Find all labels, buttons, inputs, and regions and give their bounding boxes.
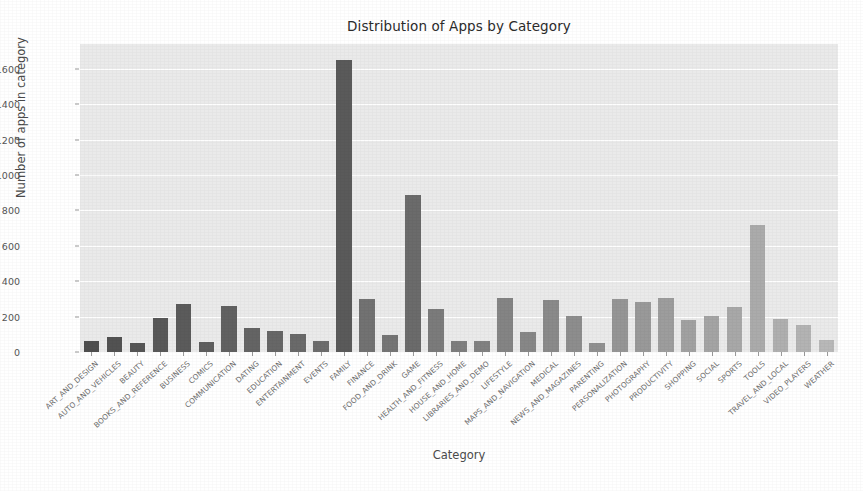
bar[interactable] (773, 319, 789, 352)
bar[interactable] (130, 343, 146, 352)
y-tick-label: 600 (0, 240, 20, 251)
y-tick-mark (75, 174, 79, 175)
bar[interactable] (84, 341, 100, 352)
x-tick-mark (344, 352, 345, 356)
y-tick-mark (75, 139, 79, 140)
x-tick-mark (827, 352, 828, 356)
x-tick-mark (574, 352, 575, 356)
bar[interactable] (359, 299, 375, 352)
y-tick-mark (75, 210, 79, 211)
x-tick-mark (183, 352, 184, 356)
y-tick-label: 1400 (0, 99, 20, 110)
x-tick-mark (781, 352, 782, 356)
x-tick-mark (758, 352, 759, 356)
x-tick-mark (367, 352, 368, 356)
x-tick-mark (413, 352, 414, 356)
bar[interactable] (704, 316, 720, 352)
bar[interactable] (428, 309, 444, 352)
x-tick-mark (160, 352, 161, 356)
x-tick-mark (298, 352, 299, 356)
x-tick-mark (666, 352, 667, 356)
y-tick-mark (75, 245, 79, 246)
x-tick-label: EVENTS (302, 359, 330, 386)
bar[interactable] (681, 320, 697, 352)
bar[interactable] (589, 343, 605, 352)
x-tick-mark (252, 352, 253, 356)
bar[interactable] (497, 298, 513, 352)
y-tick-label: 400 (0, 276, 20, 287)
y-tick-label: 1200 (0, 134, 20, 145)
bar[interactable] (543, 300, 559, 352)
bar[interactable] (199, 342, 215, 352)
bar[interactable] (750, 225, 766, 352)
x-tick-mark (689, 352, 690, 356)
x-tick-mark (206, 352, 207, 356)
x-tick-mark (528, 352, 529, 356)
x-tick-mark (505, 352, 506, 356)
x-tick-mark (91, 352, 92, 356)
x-tick-mark (114, 352, 115, 356)
y-tick-mark (75, 352, 79, 353)
y-tick-label: 0 (0, 347, 20, 358)
x-tick-mark (436, 352, 437, 356)
bar[interactable] (290, 334, 306, 352)
bar[interactable] (107, 337, 123, 352)
bar[interactable] (221, 306, 237, 352)
x-axis-label: Category (80, 448, 838, 462)
bar[interactable] (267, 331, 283, 352)
y-tick-label: 1000 (0, 169, 20, 180)
bar[interactable] (658, 298, 674, 352)
bar[interactable] (153, 318, 169, 352)
bar[interactable] (566, 316, 582, 352)
x-tick-mark (551, 352, 552, 356)
bar[interactable] (474, 341, 490, 352)
bar[interactable] (727, 307, 743, 352)
bar[interactable] (612, 299, 628, 352)
y-tick-mark (75, 104, 79, 105)
plot-area (80, 44, 838, 352)
y-tick-label: 200 (0, 311, 20, 322)
x-tick-mark (620, 352, 621, 356)
x-tick-mark (597, 352, 598, 356)
y-tick-label: 1600 (0, 63, 20, 74)
bar[interactable] (635, 302, 651, 352)
x-tick-mark (735, 352, 736, 356)
bar[interactable] (336, 60, 352, 352)
x-tick-mark (459, 352, 460, 356)
x-tick-mark (390, 352, 391, 356)
x-tick-mark (804, 352, 805, 356)
y-tick-mark (75, 68, 79, 69)
y-tick-mark (75, 281, 79, 282)
bar[interactable] (520, 332, 536, 352)
bar[interactable] (313, 341, 329, 352)
x-tick-mark (321, 352, 322, 356)
bar[interactable] (796, 325, 812, 352)
bar[interactable] (244, 328, 260, 352)
x-tick-mark (482, 352, 483, 356)
x-tick-mark (137, 352, 138, 356)
y-tick-mark (75, 316, 79, 317)
bar[interactable] (451, 341, 467, 352)
x-tick-label: SPORTS (716, 359, 744, 385)
chart-title: Distribution of Apps by Category (80, 18, 838, 34)
x-tick-mark (275, 352, 276, 356)
x-tick-label: SOCIAL (694, 359, 721, 384)
bar[interactable] (176, 304, 192, 352)
x-tick-mark (229, 352, 230, 356)
bar[interactable] (405, 195, 421, 352)
y-tick-label: 800 (0, 205, 20, 216)
chart-figure: Distribution of Apps by Category Number … (0, 0, 863, 491)
x-tick-mark (712, 352, 713, 356)
bars-layer (80, 44, 838, 352)
x-tick-mark (643, 352, 644, 356)
bar[interactable] (382, 335, 398, 352)
bar[interactable] (819, 340, 835, 352)
